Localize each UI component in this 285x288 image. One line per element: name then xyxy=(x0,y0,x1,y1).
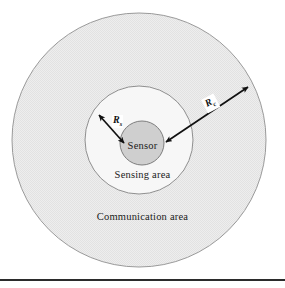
sensing-radius-subscript: s xyxy=(120,120,123,127)
figure-bottom-rule xyxy=(0,279,285,281)
communication-area-label: Communication area xyxy=(0,211,285,222)
sensor-coverage-figure: Sensor Sensing area Communication area R… xyxy=(0,0,285,288)
sensing-radius-label: Rs xyxy=(112,115,123,128)
sensing-radius-symbol: R xyxy=(113,114,120,125)
sensing-area-label: Sensing area xyxy=(0,169,285,180)
sensor-label: Sensor xyxy=(0,140,285,151)
